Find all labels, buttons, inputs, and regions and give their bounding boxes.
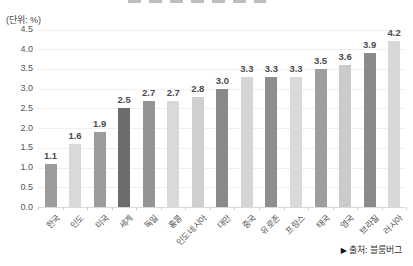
triangle-bullet-icon: ▶ — [341, 246, 347, 255]
bar-value-label: 1.6 — [60, 131, 90, 141]
bar-영국 — [339, 65, 351, 207]
x-tick — [161, 207, 162, 210]
bar-value-label: 4.2 — [379, 28, 409, 38]
y-tick-label: 2.5 — [7, 104, 33, 113]
category-label-브라질: 브라질 — [358, 213, 381, 236]
bar-미국 — [94, 132, 106, 207]
cropped-title-fragment — [128, 0, 266, 3]
source-text: 출처: 블룸버그 — [349, 245, 402, 255]
category-label-대만: 대만 — [216, 213, 234, 231]
bar-러시아 — [388, 41, 400, 207]
category-label-한국: 한국 — [44, 213, 62, 231]
y-tick-label: 3.5 — [7, 64, 33, 73]
category-label-홍콩: 홍콩 — [167, 213, 185, 231]
category-label-러시아: 러시아 — [382, 213, 405, 236]
bar-인도 — [69, 144, 81, 207]
x-tick — [87, 207, 88, 210]
x-tick — [210, 207, 211, 210]
category-label-프랑스: 프랑스 — [284, 213, 307, 236]
category-label-세계: 세계 — [118, 213, 136, 231]
bar-value-label: 1.9 — [85, 119, 115, 129]
x-tick — [234, 207, 235, 210]
x-tick — [357, 207, 358, 210]
source-note: ▶출처: 블룸버그 — [341, 243, 402, 256]
bar-홍콩 — [167, 101, 179, 207]
y-tick-label: 4.5 — [7, 25, 33, 34]
y-tick-label: 1.0 — [7, 163, 33, 172]
bar-유로존 — [265, 77, 277, 207]
x-tick — [112, 207, 113, 210]
category-label-미국: 미국 — [93, 213, 111, 231]
y-tick-label: 0.5 — [7, 183, 33, 192]
bar-한국 — [45, 164, 57, 207]
x-tick — [382, 207, 383, 210]
x-tick — [259, 207, 260, 210]
category-label-독일: 독일 — [142, 213, 160, 231]
bar-세계 — [118, 108, 130, 207]
y-tick-label: 4.0 — [7, 45, 33, 54]
bar-브라질 — [364, 53, 376, 207]
bar-value-label: 1.1 — [36, 151, 66, 161]
category-label-중국: 중국 — [241, 213, 259, 231]
y-tick-label: 0.0 — [7, 203, 33, 212]
y-tick-label: 1.5 — [7, 143, 33, 152]
bar-태국 — [315, 69, 327, 207]
bar-value-label: 3.6 — [330, 52, 360, 62]
chart-canvas: (단위: %) 0.00.51.01.52.02.53.03.54.04.5 1… — [0, 0, 413, 266]
x-tick — [406, 207, 407, 210]
y-tick-label: 2.0 — [7, 124, 33, 133]
x-tick — [136, 207, 137, 210]
x-tick — [185, 207, 186, 210]
category-label-영국: 영국 — [339, 213, 357, 231]
x-tick — [284, 207, 285, 210]
x-tick — [308, 207, 309, 210]
bar-value-label: 3.0 — [207, 76, 237, 86]
bar-인도네시아 — [192, 97, 204, 207]
bar-중국 — [241, 77, 253, 207]
bar-대만 — [216, 89, 228, 207]
x-tick — [63, 207, 64, 210]
category-label-인도: 인도 — [69, 213, 87, 231]
gridline-4.5 — [38, 30, 405, 31]
y-tick-label: 3.0 — [7, 84, 33, 93]
category-label-유로존: 유로존 — [259, 213, 282, 236]
bar-독일 — [143, 101, 155, 207]
category-label-태국: 태국 — [314, 213, 332, 231]
x-tick — [333, 207, 334, 210]
x-tick — [38, 207, 39, 210]
bar-프랑스 — [290, 77, 302, 207]
gridline-0.0 — [38, 207, 405, 208]
bar-value-label: 3.9 — [355, 40, 385, 50]
